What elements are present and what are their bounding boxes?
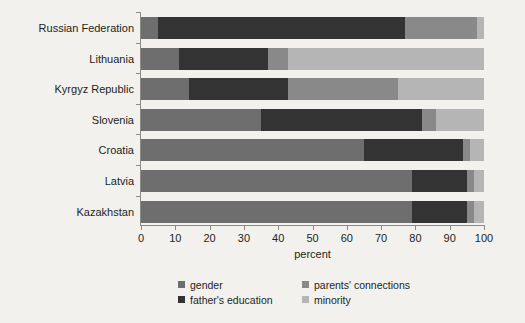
bar-segment <box>422 109 436 131</box>
legend-item[interactable]: gender <box>178 277 302 292</box>
category-label: Croatia <box>2 144 134 156</box>
legend-swatch-icon <box>178 281 185 288</box>
bar-segment <box>141 170 412 192</box>
bar-segment <box>463 139 470 161</box>
x-tick <box>175 226 176 230</box>
bar-row <box>141 201 484 223</box>
x-tick-label: 30 <box>229 232 259 244</box>
bar-segment <box>158 17 405 39</box>
x-tick-label: 60 <box>332 232 362 244</box>
x-tick-label: 20 <box>195 232 225 244</box>
bar-segment <box>405 17 477 39</box>
bar-segment <box>141 78 189 100</box>
bar-segment <box>288 78 398 100</box>
bar-segment <box>436 109 484 131</box>
y-tick <box>136 104 141 105</box>
bar-segment <box>141 17 158 39</box>
x-tick <box>278 226 279 230</box>
legend-label: parents' connections <box>314 279 410 291</box>
x-tick <box>415 226 416 230</box>
x-tick <box>347 226 348 230</box>
y-tick <box>136 43 141 44</box>
x-tick <box>381 226 382 230</box>
y-tick <box>136 12 141 13</box>
x-tick-label: 70 <box>366 232 396 244</box>
y-tick <box>136 165 141 166</box>
bar-row <box>141 139 484 161</box>
x-axis-title: percent <box>141 248 484 260</box>
x-tick <box>210 226 211 230</box>
y-tick <box>136 196 141 197</box>
bar-segment <box>179 48 268 70</box>
category-label: Latvia <box>2 175 134 187</box>
y-tick <box>136 73 141 74</box>
category-label: Russian Federation <box>2 22 134 34</box>
bar-segment <box>412 201 467 223</box>
bar-segment <box>467 170 474 192</box>
chart-legend: genderparents' connectionsfather's educa… <box>178 277 478 307</box>
bar-segment <box>412 170 467 192</box>
bar-segment <box>141 139 364 161</box>
plot-area <box>141 12 484 224</box>
category-label: Kyrgyz Republic <box>2 83 134 95</box>
x-tick <box>244 226 245 230</box>
legend-label: gender <box>190 279 223 291</box>
bar-segment <box>364 139 463 161</box>
x-tick <box>313 226 314 230</box>
legend-swatch-icon <box>302 281 309 288</box>
x-tick <box>450 226 451 230</box>
x-tick-label: 0 <box>126 232 156 244</box>
legend-label: minority <box>314 294 351 306</box>
bar-segment <box>189 78 288 100</box>
x-tick-label: 40 <box>263 232 293 244</box>
category-label: Slovenia <box>2 114 134 126</box>
bar-segment <box>261 109 422 131</box>
bar-segment <box>268 48 289 70</box>
x-tick-label: 10 <box>160 232 190 244</box>
x-tick <box>484 226 485 230</box>
bar-segment <box>474 170 484 192</box>
bar-segment <box>467 201 474 223</box>
bar-row <box>141 78 484 100</box>
legend-swatch-icon <box>178 296 185 303</box>
bar-segment <box>474 201 484 223</box>
bar-segment <box>141 201 412 223</box>
bar-row <box>141 109 484 131</box>
x-tick-label: 80 <box>400 232 430 244</box>
stacked-bar-chart: Russian FederationLithuaniaKyrgyz Republ… <box>0 0 525 323</box>
x-tick <box>141 226 142 230</box>
legend-label: father's education <box>190 294 273 306</box>
category-label: Kazakhstan <box>2 206 134 218</box>
category-label: Lithuania <box>2 53 134 65</box>
legend-item[interactable]: parents' connections <box>302 277 462 292</box>
legend-item[interactable]: minority <box>302 292 462 307</box>
bar-segment <box>477 17 484 39</box>
legend-swatch-icon <box>302 296 309 303</box>
bar-row <box>141 48 484 70</box>
y-tick <box>136 134 141 135</box>
bar-segment <box>398 78 484 100</box>
bar-row <box>141 170 484 192</box>
x-tick-label: 100 <box>469 232 499 244</box>
bar-segment <box>288 48 484 70</box>
x-tick-label: 50 <box>298 232 328 244</box>
bar-segment <box>141 48 179 70</box>
bar-row <box>141 17 484 39</box>
legend-item[interactable]: father's education <box>178 292 302 307</box>
bar-segment <box>141 109 261 131</box>
bar-segment <box>470 139 484 161</box>
x-tick-label: 90 <box>435 232 465 244</box>
